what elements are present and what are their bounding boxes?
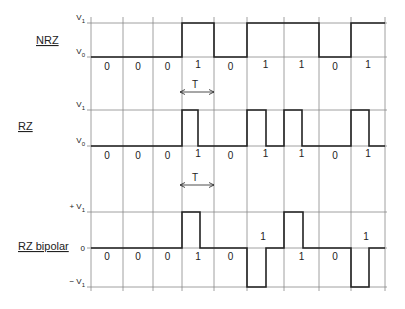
bit-label: 0 [165,61,171,72]
bit-label: 1 [263,148,269,159]
bit-label: 0 [165,150,171,161]
bit-label: 1 [299,59,305,70]
bit-label: 0 [332,61,338,72]
bit-label: 0 [332,251,338,262]
panel-title: RZ [18,120,33,132]
bit-label: 1 [195,148,201,159]
level-label: V0 [76,47,85,58]
bit-label: 0 [228,150,234,161]
bit-label: 0 [135,150,141,161]
bit-label: 0 [104,251,110,262]
level-label: V1 [76,13,85,24]
bit-label: 0 [228,61,234,72]
bit-label: 1 [263,59,269,70]
bit-label: 0 [104,61,110,72]
bit-label: 1 [365,59,371,70]
bit-label: 0 [135,251,141,262]
bit-label: 1 [365,148,371,159]
level-label: 0 [81,244,86,253]
bit-label: 0 [135,61,141,72]
line-coding-diagram: V1V0NRZ000101101TV1V0RZ000101101T+ V10− … [0,0,405,309]
panel-title: RZ bipolar [18,240,69,252]
panel-title: NRZ [36,34,59,46]
level-label: − V1 [69,277,85,288]
bit-label: 1 [299,251,305,262]
bit-label: 1 [299,148,305,159]
bit-label: 0 [228,251,234,262]
level-label: V0 [76,136,85,147]
period-label: T [192,79,198,90]
bit-label: 0 [332,150,338,161]
bit-label: 1 [195,59,201,70]
bit-label: 0 [104,150,110,161]
level-label: + V1 [69,202,85,213]
bit-label: 1 [195,251,201,262]
level-label: V1 [76,100,85,111]
signal-waveform [91,212,385,287]
bit-label: 1 [260,231,266,242]
signal-waveform [91,110,385,146]
bit-label: 0 [165,251,171,262]
signal-waveform [91,23,385,57]
period-label: T [192,172,198,183]
bit-label: 1 [363,231,369,242]
